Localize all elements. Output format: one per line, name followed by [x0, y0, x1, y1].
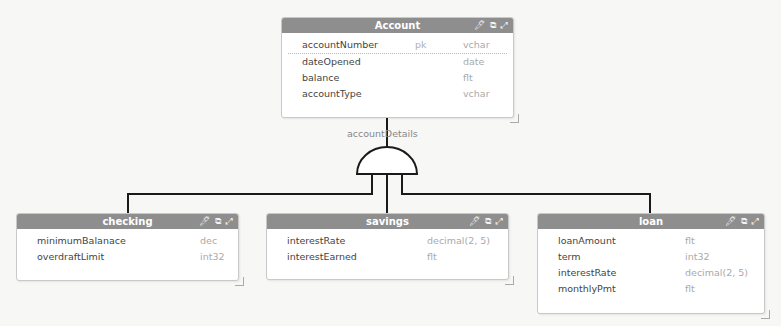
entity-savings[interactable]: savings 🖊︎ ⧉ ⤢ interestRate decimal(2, 5… — [266, 213, 509, 280]
field-row[interactable]: dateOpened date — [282, 54, 513, 70]
child-link-checking — [128, 174, 372, 213]
edit-icon[interactable]: ⧉ — [490, 19, 496, 32]
field-row[interactable]: monthlyPmt flt — [538, 281, 764, 297]
field-name: accountType — [302, 86, 362, 102]
relationship-label: accountDetails — [347, 128, 418, 139]
field-name: interestRate — [558, 265, 616, 281]
entity-loan[interactable]: loan 🖊︎ ⧉ ⤢ loanAmount flt term int32 in… — [537, 213, 765, 314]
field-type: int32 — [685, 249, 709, 265]
expand-icon[interactable]: ⤢ — [752, 215, 759, 228]
field-row[interactable]: overdraftLimit int32 — [17, 249, 238, 265]
field-type: flt — [685, 233, 695, 249]
field-type: flt — [463, 70, 473, 86]
entity-header[interactable]: Account 🖊︎ ⧉ ⤢ — [282, 18, 513, 33]
pin-icon[interactable]: 🖊︎ — [725, 215, 736, 228]
field-name: minimumBalanace — [37, 233, 126, 249]
field-name: monthlyPmt — [558, 281, 616, 297]
field-row[interactable]: accountType vchar — [282, 86, 513, 102]
field-row[interactable]: interestRate decimal(2, 5) — [267, 233, 508, 249]
field-name: overdraftLimit — [37, 249, 104, 265]
expand-icon[interactable]: ⤢ — [226, 215, 233, 228]
edit-icon[interactable]: ⧉ — [741, 215, 747, 228]
resize-handle[interactable] — [510, 114, 519, 123]
edit-icon[interactable]: ⧉ — [485, 215, 491, 228]
field-row[interactable]: balance flt — [282, 70, 513, 86]
resize-handle[interactable] — [761, 310, 770, 319]
field-row[interactable]: loanAmount flt — [538, 233, 764, 249]
expand-icon[interactable]: ⤢ — [496, 215, 503, 228]
field-type: decimal(2, 5) — [427, 233, 490, 249]
field-type: int32 — [200, 249, 224, 265]
entity-header[interactable]: savings 🖊︎ ⧉ ⤢ — [267, 214, 508, 229]
pin-icon[interactable]: 🖊︎ — [199, 215, 210, 228]
resize-handle[interactable] — [235, 277, 244, 286]
field-row[interactable]: interestRate decimal(2, 5) — [538, 265, 764, 281]
pin-icon[interactable]: 🖊︎ — [474, 19, 485, 32]
field-row[interactable]: accountNumber pk vchar — [288, 37, 507, 54]
field-type: flt — [427, 249, 437, 265]
field-name: loanAmount — [558, 233, 616, 249]
field-type: date — [463, 54, 484, 70]
and-gate-shape — [357, 147, 417, 174]
resize-handle[interactable] — [505, 276, 514, 285]
field-name: balance — [302, 70, 339, 86]
expand-icon[interactable]: ⤢ — [501, 19, 508, 32]
field-name: dateOpened — [302, 54, 361, 70]
primary-key-badge: pk — [415, 37, 427, 53]
edit-icon[interactable]: ⧉ — [215, 215, 221, 228]
entity-checking[interactable]: checking 🖊︎ ⧉ ⤢ minimumBalanace dec over… — [16, 213, 239, 281]
field-type: vchar — [463, 37, 490, 53]
pin-icon[interactable]: 🖊︎ — [469, 215, 480, 228]
field-name: interestEarned — [287, 249, 357, 265]
field-row[interactable]: term int32 — [538, 249, 764, 265]
entity-account[interactable]: Account 🖊︎ ⧉ ⤢ accountNumber pk vchar da… — [281, 17, 514, 118]
field-type: vchar — [463, 86, 490, 102]
field-type: decimal(2, 5) — [685, 265, 748, 281]
field-name: interestRate — [287, 233, 345, 249]
diagram-canvas: accountDetails Account 🖊︎ ⧉ ⤢ accountNum… — [0, 0, 781, 326]
field-type: flt — [685, 281, 695, 297]
field-type: dec — [200, 233, 217, 249]
field-name: accountNumber — [302, 37, 378, 53]
child-link-loan — [402, 174, 650, 213]
field-row[interactable]: interestEarned flt — [267, 249, 508, 265]
entity-header[interactable]: loan 🖊︎ ⧉ ⤢ — [538, 214, 764, 229]
field-row[interactable]: minimumBalanace dec — [17, 233, 238, 249]
field-name: term — [558, 249, 581, 265]
entity-header[interactable]: checking 🖊︎ ⧉ ⤢ — [17, 214, 238, 229]
